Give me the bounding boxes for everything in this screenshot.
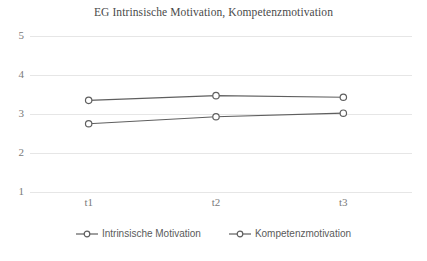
chart-container: EG Intrinsische Motivation, Kompetenzmot… xyxy=(0,0,427,261)
x-axis-tick-label-t1: t1 xyxy=(74,196,104,208)
legend-item-0[interactable]: Intrinsische Motivation xyxy=(76,228,201,239)
data-point-marker[interactable] xyxy=(213,114,219,120)
legend-marker-icon xyxy=(76,229,98,239)
data-point-marker[interactable] xyxy=(85,97,91,103)
legend-label: Intrinsische Motivation xyxy=(102,228,201,239)
y-axis-tick-label: 3 xyxy=(6,107,24,119)
series-group xyxy=(85,92,346,126)
legend-label: Kompetenzmotivation xyxy=(255,228,351,239)
x-axis-tick-label-t3: t3 xyxy=(328,196,358,208)
y-axis-tick-label: 1 xyxy=(6,185,24,197)
data-point-marker[interactable] xyxy=(85,121,91,127)
y-axis-tick-label: 4 xyxy=(6,68,24,80)
data-point-marker[interactable] xyxy=(340,94,346,100)
data-point-marker[interactable] xyxy=(213,92,219,98)
x-axis-tick-label-t2: t2 xyxy=(201,196,231,208)
data-point-marker[interactable] xyxy=(340,110,346,116)
legend-marker-icon xyxy=(229,229,251,239)
plot-area xyxy=(0,0,427,261)
y-axis-tick-label: 2 xyxy=(6,146,24,158)
legend-item-1[interactable]: Kompetenzmotivation xyxy=(229,228,351,239)
y-axis-tick-label: 5 xyxy=(6,29,24,41)
chart-legend: Intrinsische MotivationKompetenzmotivati… xyxy=(0,228,427,239)
gridlines-group xyxy=(30,37,412,193)
